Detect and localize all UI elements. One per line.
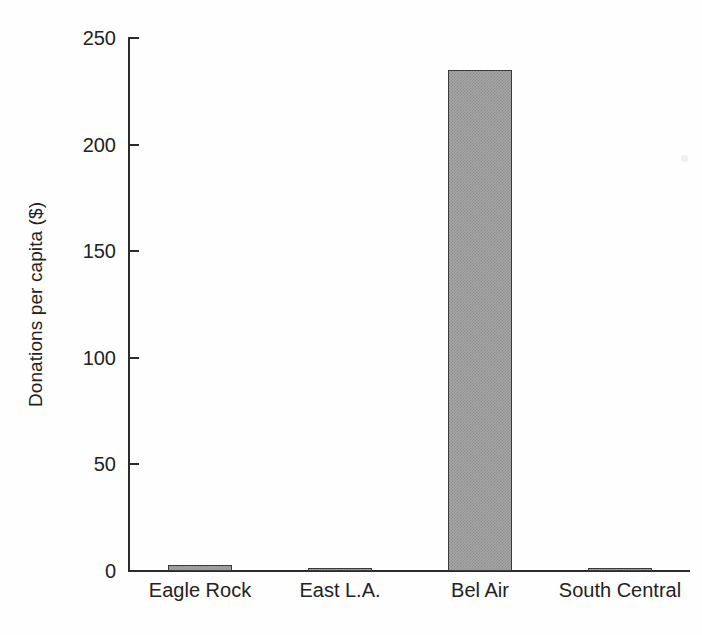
bar — [168, 565, 232, 571]
y-axis-tick-label: 100 — [83, 348, 116, 368]
x-axis-tick-labels: Eagle RockEast L.A.Bel AirSouth Central — [130, 578, 690, 614]
y-axis-tick-label: 150 — [83, 241, 116, 261]
x-axis-tick-label: Eagle Rock — [149, 578, 251, 602]
y-axis-title: Donations per capita ($) — [21, 38, 51, 571]
y-axis-tick-label: 250 — [83, 28, 116, 48]
bar — [448, 70, 512, 571]
scan-artifact-speck — [681, 155, 688, 162]
y-axis-tick-label: 50 — [94, 454, 116, 474]
bar — [588, 568, 652, 571]
bar-chart-figure: Donations per capita ($) 050100150200250… — [0, 0, 702, 635]
y-axis-tick-label: 200 — [83, 135, 116, 155]
x-axis-tick-label: South Central — [559, 578, 681, 602]
y-axis-tick-label: 0 — [105, 561, 116, 581]
x-axis-tick-label: East L.A. — [299, 578, 380, 602]
bars-layer — [130, 38, 690, 571]
x-axis-tick-label: Bel Air — [451, 578, 509, 602]
bar — [308, 568, 372, 571]
